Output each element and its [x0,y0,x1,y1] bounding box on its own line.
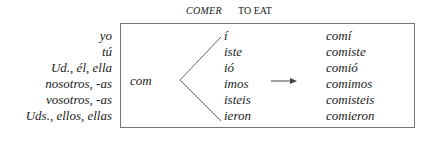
conjugated-form-item: comimos [326,76,375,92]
conjugated-form-item: comisteis [326,92,375,108]
conjugated-form-item: comieron [326,108,375,124]
conjugated-form-list: comí comiste comió comimos comisteis com… [326,28,375,124]
conjugated-form-item: comí [326,28,375,44]
conjugated-form-item: comió [326,60,375,76]
conjugated-form-item: comiste [326,44,375,60]
